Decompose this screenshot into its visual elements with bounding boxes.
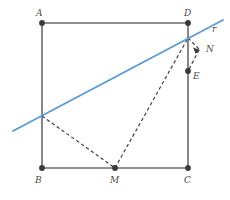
line-label-r: r [212,25,216,34]
point-label-N: N [206,45,214,54]
vertex-dot-B [39,165,45,171]
vertex-label-C: C [184,176,191,185]
figure-canvas [0,0,230,200]
line-r [13,20,223,131]
dashed-segment-p-m [42,116,115,168]
vertex-dot-C [185,165,191,171]
point-label-M: M [110,176,119,185]
vertex-dots [39,20,191,171]
dashed-segment-d-n [188,38,199,49]
vertex-dot-D [185,20,191,26]
vertex-label-B: B [35,176,42,185]
point-label-E: E [193,72,200,81]
vertex-dot-E [185,68,191,74]
vertex-dot-A [39,20,45,26]
dashed-segment-n-e [188,50,199,71]
vertex-label-D: D [184,9,191,18]
vertex-dot-M [112,165,118,171]
geometry-figure: A D C B M E N r [0,0,230,200]
square-edges [42,23,188,168]
vertex-label-A: A [36,9,43,18]
